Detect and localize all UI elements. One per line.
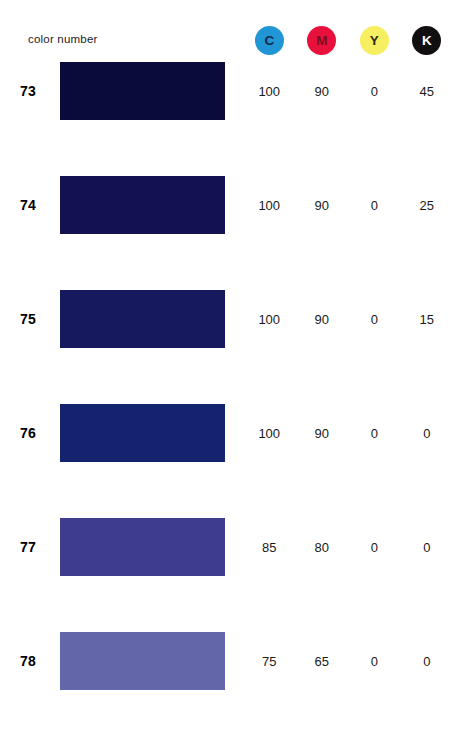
magenta-ink-icon: M [307, 26, 336, 55]
chart-header: color number CMYK [0, 0, 453, 62]
color-swatch [60, 632, 225, 690]
y-value: 0 [348, 198, 401, 213]
k-value: 0 [401, 426, 453, 441]
table-row: 78756500 [0, 632, 453, 746]
cyan-ink-icon: C [255, 26, 284, 55]
c-value: 75 [243, 654, 296, 669]
color-number-label: 76 [20, 404, 36, 462]
color-number-header-label: color number [28, 33, 98, 45]
color-number-label: 78 [20, 632, 36, 690]
table-row: 77858000 [0, 518, 453, 632]
ink-cell-black: K [401, 26, 453, 55]
y-value: 0 [348, 426, 401, 441]
cmyk-values: 756500 [243, 632, 453, 690]
color-swatch [60, 176, 225, 234]
c-value: 100 [243, 312, 296, 327]
table-row: 7310090045 [0, 62, 453, 176]
color-swatch [60, 518, 225, 576]
table-row: 7510090015 [0, 290, 453, 404]
k-value: 45 [401, 84, 453, 99]
c-value: 85 [243, 540, 296, 555]
k-value: 15 [401, 312, 453, 327]
color-number-label: 75 [20, 290, 36, 348]
color-swatch [60, 290, 225, 348]
color-chart-sheet: color number CMYK 7310090045741009002575… [0, 0, 453, 746]
color-number-label: 73 [20, 62, 36, 120]
ink-cell-cyan: C [243, 26, 296, 55]
m-value: 90 [296, 426, 349, 441]
k-value: 25 [401, 198, 453, 213]
m-value: 65 [296, 654, 349, 669]
ink-cell-magenta: M [296, 26, 349, 55]
m-value: 80 [296, 540, 349, 555]
color-number-label: 77 [20, 518, 36, 576]
cmyk-values: 10090015 [243, 290, 453, 348]
yellow-ink-icon: Y [360, 26, 389, 55]
m-value: 90 [296, 312, 349, 327]
k-value: 0 [401, 540, 453, 555]
ink-legend: CMYK [243, 26, 453, 55]
m-value: 90 [296, 84, 349, 99]
ink-cell-yellow: Y [348, 26, 401, 55]
table-row: 761009000 [0, 404, 453, 518]
k-value: 0 [401, 654, 453, 669]
y-value: 0 [348, 540, 401, 555]
c-value: 100 [243, 426, 296, 441]
c-value: 100 [243, 84, 296, 99]
y-value: 0 [348, 312, 401, 327]
color-swatch [60, 404, 225, 462]
y-value: 0 [348, 84, 401, 99]
m-value: 90 [296, 198, 349, 213]
cmyk-values: 10090045 [243, 62, 453, 120]
table-row: 7410090025 [0, 176, 453, 290]
black-ink-icon: K [412, 26, 441, 55]
c-value: 100 [243, 198, 296, 213]
color-number-label: 74 [20, 176, 36, 234]
cmyk-values: 10090025 [243, 176, 453, 234]
color-rows: 7310090045741009002575100900157610090007… [0, 62, 453, 746]
color-swatch [60, 62, 225, 120]
cmyk-values: 858000 [243, 518, 453, 576]
cmyk-values: 1009000 [243, 404, 453, 462]
y-value: 0 [348, 654, 401, 669]
